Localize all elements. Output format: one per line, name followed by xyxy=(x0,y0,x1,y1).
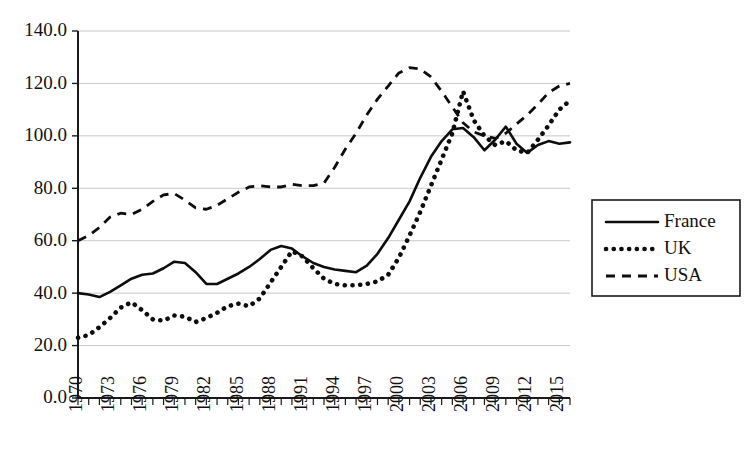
x-tick-label: 2012 xyxy=(515,376,535,412)
x-tick-label: 1991 xyxy=(291,376,311,412)
x-tick-label: 2009 xyxy=(483,376,503,412)
legend-label-uk: UK xyxy=(664,237,692,258)
x-tick-label: 2000 xyxy=(387,376,407,412)
y-tick-label: 60.0 xyxy=(34,229,67,250)
series-line-france xyxy=(78,127,570,297)
x-tick-label: 1979 xyxy=(162,376,182,412)
gridlines xyxy=(78,31,570,346)
x-tick-label: 1985 xyxy=(227,376,247,412)
x-tick-label: 1970 xyxy=(66,376,86,412)
x-tick-label: 2003 xyxy=(419,376,439,412)
y-tick-label: 120.0 xyxy=(24,72,67,93)
data-series xyxy=(78,68,570,338)
x-tick-label: 1976 xyxy=(130,376,150,412)
legend: FranceUKUSA xyxy=(592,200,740,296)
series-line-usa xyxy=(78,68,570,241)
legend-label-usa: USA xyxy=(664,264,702,285)
x-tick-label: 1997 xyxy=(355,376,375,412)
x-tick-label: 2015 xyxy=(547,376,567,412)
x-tick-label: 2006 xyxy=(451,376,471,412)
x-tick-label: 1988 xyxy=(259,376,279,412)
series-line-uk xyxy=(78,91,570,337)
x-tick-label: 1994 xyxy=(323,376,343,412)
chart-figure: 0.020.040.060.080.0100.0120.0140.0 19701… xyxy=(0,0,754,473)
y-tick-label: 80.0 xyxy=(34,177,67,198)
x-tick-label: 1982 xyxy=(194,376,214,412)
line-chart-canvas: 0.020.040.060.080.0100.0120.0140.0 19701… xyxy=(0,0,754,473)
x-tick-label: 1973 xyxy=(98,376,118,412)
y-axis xyxy=(72,31,78,398)
y-tick-label: 0.0 xyxy=(43,386,67,407)
y-tick-label: 40.0 xyxy=(34,282,67,303)
y-tick-label: 100.0 xyxy=(24,124,67,145)
x-axis-tick-labels: 1970197319761979198219851988199119941997… xyxy=(66,376,567,412)
legend-label-france: France xyxy=(664,210,716,231)
y-axis-tick-labels: 0.020.040.060.080.0100.0120.0140.0 xyxy=(24,19,67,407)
y-tick-label: 20.0 xyxy=(34,334,67,355)
y-tick-label: 140.0 xyxy=(24,19,67,40)
